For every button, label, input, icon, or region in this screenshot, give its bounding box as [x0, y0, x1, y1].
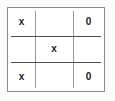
tic-tac-toe-screenshot: x 0 x x 0 — [0, 0, 115, 101]
cell-row3-col2[interactable] — [35, 62, 73, 91]
cell-row1-col1[interactable]: x — [8, 8, 35, 36]
cell-row1-col3[interactable]: 0 — [73, 8, 104, 36]
tic-tac-toe-board: x 0 x x 0 — [7, 7, 105, 92]
cell-row2-col1[interactable] — [8, 36, 35, 62]
cell-row2-col2[interactable]: x — [35, 36, 73, 62]
cell-row3-col1[interactable]: x — [8, 62, 35, 91]
cell-grid: x 0 x x 0 — [8, 8, 104, 91]
cell-row1-col2[interactable] — [35, 8, 73, 36]
cell-row3-col3[interactable]: 0 — [73, 62, 104, 91]
cell-row2-col3[interactable] — [73, 36, 104, 62]
